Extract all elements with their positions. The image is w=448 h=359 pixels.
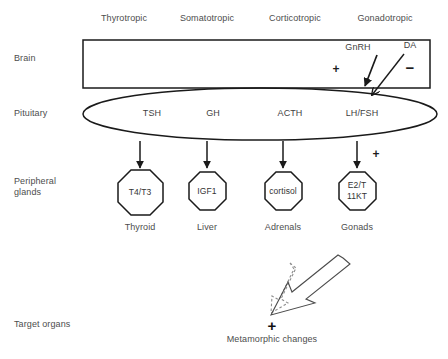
organ-label-liver: Liver	[197, 222, 217, 233]
row-label-brain: Brain	[14, 53, 36, 64]
gland-product-adrenals: cortisol	[269, 186, 297, 196]
organ-label-gonads: Gonads	[341, 222, 373, 233]
gland-product-gonads-line1: E2/T	[348, 180, 366, 190]
pituitary-hormone-lh-fsh: LH/FSH	[346, 108, 379, 119]
figure-canvas: Thyrotropic Somatotropic Corticotropic G…	[0, 0, 448, 359]
brain-box	[83, 40, 430, 88]
gland-product-thyroid: T4/T3	[129, 187, 152, 197]
axis-label-corticotropic: Corticotropic	[269, 13, 321, 24]
metamorphic-changes-label: Metamorphic changes	[227, 334, 317, 345]
dashed-block-arrow	[271, 263, 296, 313]
dopamine-minus-sign: −	[406, 60, 415, 75]
row-label-target-organs: Target organs	[14, 319, 70, 330]
axis-label-gonadotropic: Gonadotropic	[357, 13, 412, 24]
gland-product-gonads-line2: 11KT	[347, 191, 367, 201]
pituitary-ellipse	[83, 88, 437, 140]
pituitary-hormone-acth: ACTH	[278, 108, 303, 119]
gonad-stimulation-plus-sign: +	[372, 148, 379, 160]
axis-label-thyrotropic: Thyrotropic	[101, 13, 147, 24]
brain-factor-gnrh-label: GnRH	[345, 42, 370, 53]
dopamine-arrow	[372, 54, 404, 95]
diagram-vector-layer	[0, 0, 448, 359]
row-label-peripheral-glands: Peripheral glands	[14, 176, 56, 198]
row-label-pituitary: Pituitary	[14, 108, 47, 119]
organ-label-thyroid: Thyroid	[125, 222, 156, 233]
brain-factor-dopamine-label: DA	[404, 40, 417, 51]
metamorphic-plus-sign: +	[268, 318, 277, 333]
gnrh-plus-sign: +	[332, 63, 339, 75]
pituitary-hormone-gh: GH	[206, 108, 220, 119]
gnrh-arrow	[365, 55, 377, 86]
axis-label-somatotropic: Somatotropic	[180, 13, 234, 24]
organ-label-adrenals: Adrenals	[265, 222, 301, 233]
gland-product-liver: IGF1	[197, 186, 216, 196]
pituitary-hormone-tsh: TSH	[143, 108, 161, 119]
solid-block-arrow	[271, 255, 350, 315]
